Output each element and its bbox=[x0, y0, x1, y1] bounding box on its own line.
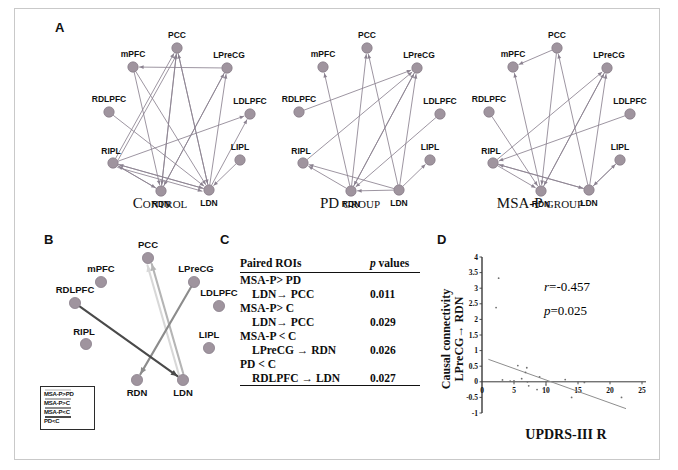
scatter-point bbox=[564, 379, 566, 381]
svg-text:RDLPFC: RDLPFC bbox=[56, 284, 95, 295]
svg-text:LIPL: LIPL bbox=[611, 142, 629, 152]
y-axis-title-line2: LPreCG→ RDN bbox=[452, 296, 466, 381]
p-values-table-element: Paired ROIs p values MSA-P> PDLDN→ PCC0.… bbox=[240, 255, 420, 389]
network-msap-graph: PCCmPFCLPreCGRDLPFCLDLPFCRIPLLIPLRDNLDN bbox=[425, 10, 655, 210]
p-value bbox=[364, 329, 420, 343]
p-value bbox=[364, 273, 420, 288]
y-tick-label: -0.5 bbox=[466, 393, 478, 402]
svg-text:mPFC: mPFC bbox=[501, 49, 526, 59]
roi-pair-label: LDN→ PCC bbox=[240, 315, 364, 329]
scatter-point bbox=[509, 380, 511, 382]
svg-text:LDLPFC: LDLPFC bbox=[200, 287, 238, 298]
svg-text:RIPL: RIPL bbox=[73, 326, 95, 337]
difference-legend: MSA-P>PD MSA-P>C MSA-P<C PD<C bbox=[40, 386, 95, 430]
svg-text:PCC: PCC bbox=[548, 30, 566, 40]
scatter-point bbox=[571, 397, 573, 399]
table-pair-row: LDN→ PCC0.029 bbox=[240, 315, 420, 329]
legend-label-pd-lt-c: PD<C bbox=[44, 418, 92, 425]
table-header-roi: Paired ROIs bbox=[240, 255, 364, 273]
scatter-point bbox=[536, 389, 538, 391]
correlation-p-annotation: p=0.025 bbox=[543, 303, 587, 318]
roi-pair-label: LDN→ PCC bbox=[240, 287, 364, 301]
y-tick-label: 2.5 bbox=[469, 299, 479, 308]
svg-text:LIPL: LIPL bbox=[199, 329, 220, 340]
correlation-r-annotation: r=-0.457 bbox=[544, 279, 590, 294]
correlation-scatter-chart: -1-0.500.511.522.533.540510152025Causal … bbox=[436, 243, 654, 448]
scatter-point bbox=[543, 388, 545, 390]
table-group-row: MSA-P> C bbox=[240, 301, 420, 315]
contrast-label: MSA-P> C bbox=[240, 301, 364, 315]
network-differences: PCCmPFCLPreCGRDLPFCLDLPFCRIPLLIPLRDNLDN bbox=[48, 240, 248, 410]
svg-text:RIPL: RIPL bbox=[481, 146, 500, 156]
x-tick-label: 25 bbox=[638, 386, 646, 395]
p-values-table: Paired ROIs p values MSA-P> PDLDN→ PCC0.… bbox=[240, 255, 420, 389]
network-msap: PCCmPFCLPreCGRDLPFCLDLPFCRIPLLIPLRDNLDN … bbox=[425, 10, 655, 225]
svg-text:mPFC: mPFC bbox=[121, 49, 146, 59]
network-msap-title: MSA-P group bbox=[425, 195, 655, 212]
scatter-point bbox=[517, 365, 519, 367]
svg-text:mPFC: mPFC bbox=[87, 263, 115, 274]
y-tick-label: 1.5 bbox=[469, 331, 479, 340]
figure-root: A B C D PCCmPFCLPreCGRDLPFCLDLPFCRIPLLIP… bbox=[0, 0, 678, 470]
table-pair-row: LDN→ PCC0.011 bbox=[240, 287, 420, 301]
scatter-point bbox=[513, 380, 515, 382]
svg-text:RIPL: RIPL bbox=[291, 146, 310, 156]
scatter-point bbox=[584, 382, 586, 384]
svg-text:PCC: PCC bbox=[358, 30, 376, 40]
table-header-row: Paired ROIs p values bbox=[240, 255, 420, 273]
table-header-p: p values bbox=[364, 255, 420, 273]
y-axis-title-line1: Causal connectivity bbox=[439, 289, 453, 389]
svg-text:LDLPFC: LDLPFC bbox=[613, 96, 647, 106]
correlation-scatter-panel: -1-0.500.511.522.533.540510152025Causal … bbox=[436, 243, 654, 448]
y-tick-label: 4 bbox=[474, 253, 478, 262]
scatter-point bbox=[546, 390, 548, 392]
scatter-point bbox=[527, 381, 529, 383]
contrast-label: MSA-P < C bbox=[240, 329, 364, 343]
y-tick-label: 3.5 bbox=[469, 268, 479, 277]
scatter-point bbox=[525, 372, 527, 374]
y-tick-label: 3 bbox=[474, 284, 478, 293]
svg-text:RDN: RDN bbox=[127, 387, 148, 398]
y-tick-label: 0 bbox=[474, 377, 478, 386]
svg-text:mPFC: mPFC bbox=[311, 49, 336, 59]
p-value: 0.026 bbox=[364, 343, 420, 357]
scatter-point bbox=[521, 378, 523, 380]
legend-item-3: PD<C bbox=[44, 416, 92, 425]
svg-text:RDLPFC: RDLPFC bbox=[282, 94, 316, 104]
scatter-point bbox=[495, 307, 497, 309]
scatter-point bbox=[498, 277, 500, 279]
y-tick-label: 0.5 bbox=[469, 362, 479, 371]
x-tick-label: 0 bbox=[480, 386, 484, 395]
table-pair-row: RDLPFC → LDN0.027 bbox=[240, 371, 420, 386]
p-value: 0.011 bbox=[364, 287, 420, 301]
svg-text:PCC: PCC bbox=[168, 30, 186, 40]
p-value bbox=[364, 301, 420, 315]
scatter-point bbox=[621, 397, 623, 399]
table-group-row: MSA-P> PD bbox=[240, 273, 420, 288]
contrast-label: PD < C bbox=[240, 357, 364, 371]
network-differences-graph: PCCmPFCLPreCGRDLPFCLDLPFCRIPLLIPLRDNLDN bbox=[48, 240, 248, 410]
p-value bbox=[364, 357, 420, 371]
svg-text:PCC: PCC bbox=[138, 240, 158, 250]
contrast-label: MSA-P> PD bbox=[240, 273, 364, 288]
svg-text:RIPL: RIPL bbox=[101, 146, 120, 156]
roi-pair-label: LPreCG → RDN bbox=[240, 343, 364, 357]
table-pair-row: LPreCG → RDN0.026 bbox=[240, 343, 420, 357]
x-axis-title: UPDRS-III R bbox=[525, 427, 607, 442]
y-tick-label: 1 bbox=[474, 346, 478, 355]
y-tick-label: 2 bbox=[474, 315, 478, 324]
legend-item-1: MSA-P>C bbox=[44, 398, 92, 407]
scatter-point bbox=[526, 367, 528, 369]
x-tick-label: 5 bbox=[512, 386, 516, 395]
roi-pair-label: RDLPFC → LDN bbox=[240, 371, 364, 386]
scatter-point bbox=[528, 385, 530, 387]
scatter-point bbox=[502, 379, 504, 381]
scatter-point bbox=[545, 384, 547, 386]
table-group-row: PD < C bbox=[240, 357, 420, 371]
scatter-point bbox=[539, 376, 541, 378]
p-value: 0.027 bbox=[364, 371, 420, 386]
x-tick-label: 20 bbox=[606, 386, 614, 395]
svg-text:RDLPFC: RDLPFC bbox=[92, 94, 126, 104]
table-group-row: MSA-P < C bbox=[240, 329, 420, 343]
table-bottom-rule bbox=[240, 386, 420, 390]
